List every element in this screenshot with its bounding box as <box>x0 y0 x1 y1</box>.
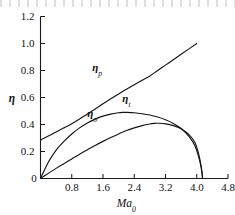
efficiency-vs-mach-chart: 00.81.62.43.24.04.80.20.40.60.81.01.2ηMa… <box>0 0 235 215</box>
y-tick-label: 1.2 <box>21 10 35 22</box>
x-tick-label: 1.6 <box>96 181 110 193</box>
curve-label-ηp: ηp <box>92 61 102 78</box>
curves-group <box>41 44 203 179</box>
y-axis-ticks: 0.20.40.60.81.01.2 <box>21 10 45 157</box>
y-tick-label: 0.6 <box>21 91 35 103</box>
y-tick-label: 1.0 <box>21 37 35 49</box>
y-tick-label: 0.4 <box>21 118 35 130</box>
x-tick-label: 4.8 <box>221 181 235 193</box>
curve-ηt <box>41 112 203 178</box>
curve-label-ηo: ηo <box>87 107 97 124</box>
x-axis-title: Ma0 <box>116 197 136 214</box>
x-tick-label: 0.8 <box>65 181 79 193</box>
curve-ηo <box>41 123 203 178</box>
x-tick-label: 0 <box>31 172 37 184</box>
y-tick-label: 0.2 <box>21 145 35 157</box>
axes-group <box>41 17 229 179</box>
x-tick-label: 2.4 <box>127 181 141 193</box>
chart-figure: 00.81.62.43.24.04.80.20.40.60.81.01.2ηMa… <box>0 0 235 215</box>
y-tick-label: 0.8 <box>21 64 35 76</box>
curve-label-ηt: ηt <box>122 92 131 109</box>
x-tick-label: 4.0 <box>190 181 204 193</box>
x-axis-ticks: 00.81.62.43.24.04.8 <box>31 172 235 193</box>
axis-lines <box>41 17 229 179</box>
y-axis-title: η <box>9 92 15 105</box>
x-tick-label: 3.2 <box>159 181 173 193</box>
